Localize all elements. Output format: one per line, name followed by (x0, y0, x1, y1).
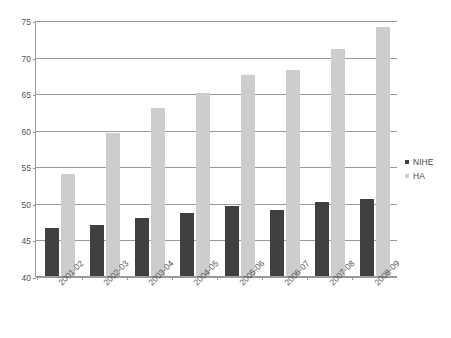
bar-group (262, 21, 307, 276)
x-axis-label-cell: 2003-04 (127, 278, 172, 336)
bar-series-container (37, 21, 397, 276)
y-axis-tick-mark (33, 95, 36, 96)
x-axis-label-cell: 2004-05 (172, 278, 217, 336)
legend-label-ha: HA (413, 172, 425, 181)
bar-ha-2006-07 (286, 70, 300, 276)
x-axis-label-cell: 2007-08 (308, 278, 353, 336)
bar-chart: 4045505560657075 2001-022002-032003-0420… (0, 0, 451, 338)
legend-item-nihe: NIHE (405, 158, 433, 167)
bar-group (82, 21, 127, 276)
x-axis-label-cell: 2005-06 (217, 278, 262, 336)
legend-swatch-ha (405, 174, 409, 178)
y-axis-tick-mark (33, 205, 36, 206)
bar-group (172, 21, 217, 276)
chart-legend: NIHE HA (405, 158, 433, 180)
bar-group (37, 21, 82, 276)
bar-ha-2001-02 (61, 174, 75, 276)
bar-nihe-2008-09 (360, 199, 374, 276)
y-axis-tick-mark (33, 132, 36, 133)
y-axis-tick-mark (33, 241, 36, 242)
x-axis-labels: 2001-022002-032003-042004-052005-062006-… (36, 278, 398, 336)
legend-swatch-nihe (405, 160, 409, 164)
bar-nihe-2002-03 (90, 225, 104, 276)
bar-ha-2005-06 (241, 75, 255, 276)
y-axis-tick-mark (33, 22, 36, 23)
x-axis-label-cell: 2006-07 (262, 278, 307, 336)
bar-nihe-2001-02 (45, 228, 59, 276)
legend-label-nihe: NIHE (413, 158, 433, 167)
x-axis-label-cell: 2008-09 (353, 278, 398, 336)
bar-nihe-2006-07 (270, 210, 284, 276)
x-axis-label-cell: 2001-02 (36, 278, 81, 336)
bar-ha-2003-04 (151, 108, 165, 276)
bar-group (352, 21, 397, 276)
plot-area: 4045505560657075 (35, 21, 397, 277)
legend-item-ha: HA (405, 172, 433, 181)
bar-ha-2002-03 (106, 133, 120, 276)
bar-group (217, 21, 262, 276)
bar-group (127, 21, 172, 276)
bar-group (307, 21, 352, 276)
bar-nihe-2005-06 (225, 206, 239, 276)
bar-ha-2007-08 (331, 49, 345, 276)
x-axis-label-cell: 2002-03 (81, 278, 126, 336)
bar-nihe-2003-04 (135, 218, 149, 277)
bar-ha-2008-09 (376, 27, 390, 276)
bar-nihe-2007-08 (315, 202, 329, 276)
bar-nihe-2004-05 (180, 213, 194, 276)
y-axis-tick-mark (33, 59, 36, 60)
y-axis-tick-mark (33, 168, 36, 169)
bar-ha-2004-05 (196, 93, 210, 276)
